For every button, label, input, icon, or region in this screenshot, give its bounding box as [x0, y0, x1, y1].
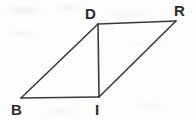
vertex-label-b: B: [11, 102, 22, 117]
edge-i-b: [21, 97, 99, 98]
vertex-label-d: D: [85, 6, 96, 21]
edge-d-r: [98, 21, 176, 24]
diagonal-d-i: [98, 24, 99, 97]
vertex-label-r: R: [174, 3, 185, 18]
vertex-label-i: I: [95, 102, 99, 117]
geometry-figure: D R I B: [0, 0, 196, 122]
edge-r-i: [99, 21, 176, 97]
edge-b-d: [21, 24, 98, 98]
